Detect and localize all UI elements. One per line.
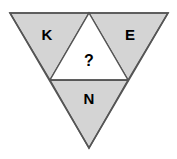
triangle-puzzle-figure: K ? E N: [0, 0, 177, 159]
cell-label-question: ?: [84, 52, 94, 69]
figure-svg: K ? E N: [0, 0, 177, 159]
cell-label-n: N: [84, 90, 95, 107]
cell-label-k: K: [42, 26, 53, 43]
cell-label-e: E: [125, 26, 135, 43]
